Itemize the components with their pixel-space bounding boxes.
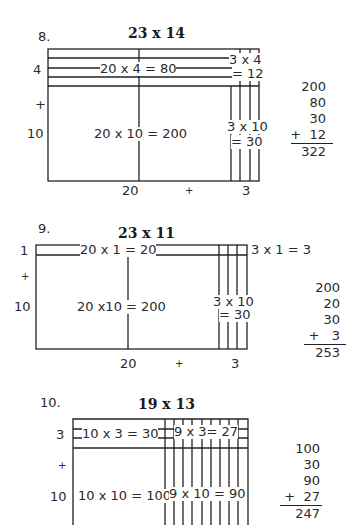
cell-bottom-left: 10 x 10 = 100 xyxy=(78,489,171,503)
row-label-top: 3 xyxy=(56,427,64,442)
cell-top-left: 10 x 3 = 30 xyxy=(82,427,158,441)
cell-top-right: 9 x 3= 27 xyxy=(174,425,238,439)
sum-line: + 27 xyxy=(280,489,320,505)
sum-total: 247 xyxy=(280,506,320,522)
sum-line: 30 xyxy=(280,457,320,473)
row-label-bottom: 10 xyxy=(50,489,67,504)
problem-number: 10. xyxy=(40,395,61,410)
sum-line: 90 xyxy=(280,473,320,489)
row-label-plus: + xyxy=(58,460,66,471)
problem-title: 19 x 13 xyxy=(138,396,195,412)
cell-bottom-right: 9 x 10 = 90 xyxy=(169,487,245,501)
sum-column: 100 30 90 + 27 247 xyxy=(280,441,322,522)
sum-line: 100 xyxy=(280,441,320,457)
